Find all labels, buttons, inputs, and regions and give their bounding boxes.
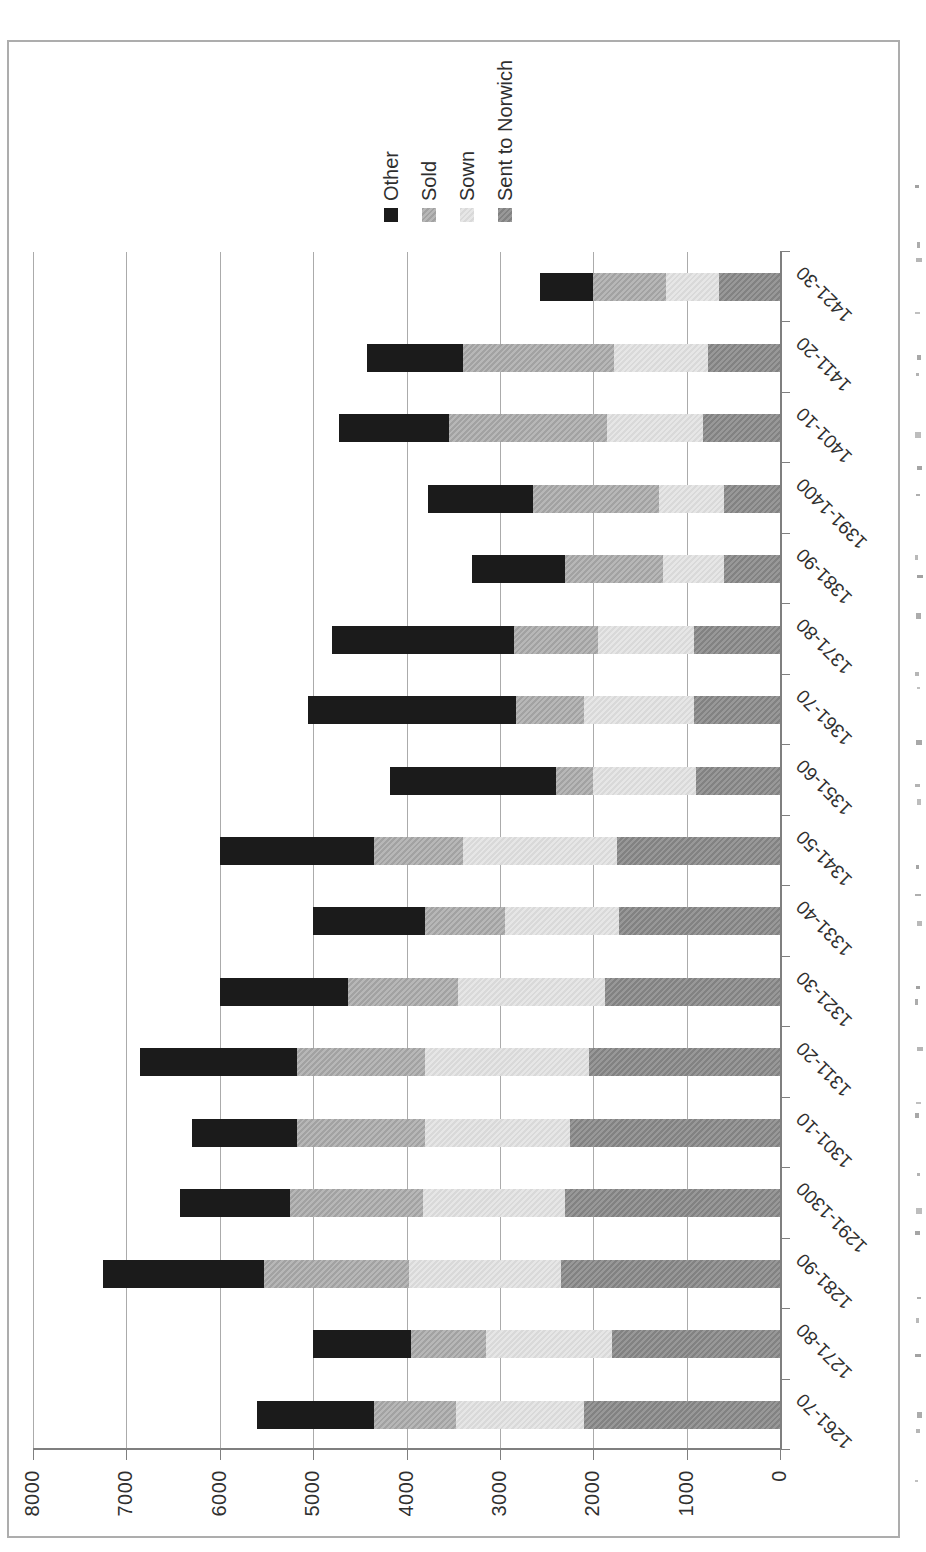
bar-1411-20-segment-sown	[614, 344, 707, 372]
y-axis-label: 8000	[21, 1470, 44, 1517]
legend-item-sown: Sown	[455, 151, 479, 222]
caption-glyph-fragment	[916, 613, 921, 619]
bar-1401-10-segment-sold	[449, 414, 608, 442]
caption-glyph-fragment	[917, 1412, 922, 1418]
x-axis-tick	[780, 251, 790, 252]
x-axis-tick	[780, 392, 790, 393]
y-axis-label: 6000	[207, 1470, 230, 1517]
caption-glyph-fragment	[916, 1208, 922, 1214]
bar-1411-20-segment-sold	[463, 344, 615, 372]
bar-1341-50-segment-sown	[463, 837, 617, 865]
bar-1311-20-segment-sold	[297, 1048, 425, 1076]
bar-1361-70-segment-other	[308, 696, 516, 724]
x-axis-line	[780, 252, 782, 1450]
caption-glyph-fragment	[917, 1297, 921, 1299]
bar-1391-1400-segment-sold	[533, 485, 659, 513]
x-axis-tick	[780, 603, 790, 604]
x-axis-tick	[780, 815, 790, 816]
bar-1281-90-segment-sent-to-norwich	[561, 1260, 780, 1288]
x-axis-tick	[780, 956, 790, 957]
y-axis-label: 3000	[487, 1470, 510, 1517]
y-axis-tick	[407, 1450, 408, 1460]
y-axis-tick	[593, 1450, 594, 1460]
bar-1281-90-segment-sold	[264, 1260, 409, 1288]
bar-1351-60-segment-sent-to-norwich	[696, 767, 780, 795]
y-axis-tick	[687, 1450, 688, 1460]
bar-1321-30-segment-sold	[348, 978, 458, 1006]
bar-1341-50-segment-sold	[374, 837, 463, 865]
caption-glyph-fragment	[917, 921, 922, 926]
bar-1321-30-segment-other	[220, 978, 348, 1006]
bar-1381-90-segment-sold	[565, 555, 663, 583]
x-axis-tick	[780, 462, 790, 463]
caption-glyph-fragment	[915, 555, 918, 560]
bar-1291-1300-segment-sold	[290, 1189, 423, 1217]
caption-glyph-fragment	[915, 432, 921, 438]
bar-1421-30-segment-sent-to-norwich	[719, 273, 780, 301]
legend-swatch-icon	[498, 208, 512, 222]
x-axis-tick	[780, 674, 790, 675]
y-axis-tick	[33, 1450, 34, 1460]
bar-1401-10-segment-sown	[607, 414, 703, 442]
bar-1291-1300-segment-other	[180, 1189, 290, 1217]
bar-1381-90-segment-sent-to-norwich	[724, 555, 780, 583]
bar-1381-90-segment-sown	[663, 555, 724, 583]
bar-1421-30-segment-sold	[593, 273, 665, 301]
bar-1381-90-segment-other	[472, 555, 565, 583]
bar-1411-20-segment-sent-to-norwich	[708, 344, 780, 372]
x-axis-tick	[780, 1097, 790, 1098]
x-axis-tick	[780, 885, 790, 886]
bar-1311-20-segment-other	[140, 1048, 296, 1076]
legend-label: Other	[380, 151, 403, 201]
bar-1291-1300-segment-sown	[423, 1189, 565, 1217]
bar-1261-70-segment-sent-to-norwich	[584, 1401, 780, 1429]
legend-swatch-icon	[460, 208, 474, 222]
bar-1401-10-segment-other	[339, 414, 449, 442]
bar-1361-70-segment-sent-to-norwich	[694, 696, 780, 724]
x-axis-tick	[780, 1167, 790, 1168]
caption-glyph-fragment	[916, 986, 920, 989]
y-axis-label: 1000	[674, 1470, 697, 1517]
x-axis-tick	[780, 1026, 790, 1027]
caption-glyph-fragment	[915, 1113, 919, 1118]
y-axis-tick	[220, 1450, 221, 1460]
caption-glyph-fragment	[916, 1102, 921, 1104]
bar-1301-10-segment-sent-to-norwich	[570, 1119, 780, 1147]
bar-1331-40-segment-sown	[505, 907, 619, 935]
y-axis-line	[33, 1448, 782, 1450]
y-axis-tick	[780, 1450, 781, 1460]
caption-glyph-fragment	[916, 1318, 919, 1323]
bar-1301-10-segment-sold	[297, 1119, 425, 1147]
caption-glyph-fragment	[917, 575, 923, 578]
legend-swatch-icon	[384, 208, 398, 222]
bar-1291-1300-segment-sent-to-norwich	[565, 1189, 780, 1217]
legend-item-sold: Sold	[417, 161, 441, 222]
caption-glyph-fragment	[916, 740, 922, 745]
bar-1271-80-segment-sown	[486, 1330, 612, 1358]
bar-1401-10-segment-sent-to-norwich	[703, 414, 780, 442]
caption-glyph-fragment	[915, 1231, 920, 1235]
y-axis-label: 5000	[301, 1470, 324, 1517]
caption-glyph-fragment	[915, 894, 921, 896]
bar-1341-50-segment-other	[220, 837, 374, 865]
gridline-8000	[33, 252, 34, 1450]
y-axis-label: 2000	[581, 1470, 604, 1517]
caption-glyph-fragment	[916, 865, 919, 869]
bar-1281-90-segment-sown	[409, 1260, 561, 1288]
x-axis-tick	[780, 1379, 790, 1380]
y-axis-label: 7000	[114, 1470, 137, 1517]
bar-1351-60-segment-sold	[556, 767, 593, 795]
bar-1271-80-segment-sent-to-norwich	[612, 1330, 780, 1358]
scanned-book-page: 0100020003000400050006000700080001261-70…	[0, 0, 926, 1552]
legend-item-sent-to-norwich: Sent to Norwich	[493, 60, 517, 222]
bar-1261-70-segment-sold	[374, 1401, 456, 1429]
legend-item-other: Other	[379, 151, 403, 222]
caption-glyph-fragment	[917, 242, 920, 248]
caption-glyph-fragment	[916, 258, 922, 262]
caption-glyph-fragment	[917, 687, 920, 689]
caption-glyph-fragment	[917, 1047, 923, 1051]
caption-glyph-fragment	[916, 373, 919, 376]
bar-1391-1400-segment-sown	[659, 485, 724, 513]
x-axis-tick	[780, 1449, 790, 1450]
bar-1261-70-segment-sown	[456, 1401, 584, 1429]
